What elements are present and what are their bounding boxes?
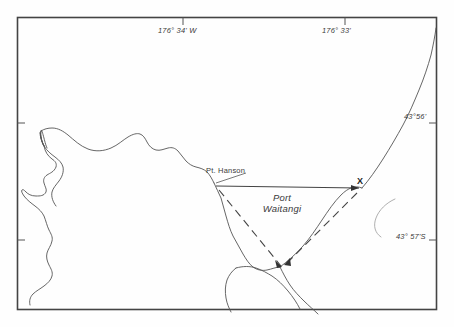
- label-port-waitangi: Port Waitangi: [252, 192, 312, 214]
- label-port-waitangi-line2: Waitangi: [252, 203, 312, 214]
- map-frame: [18, 18, 437, 310]
- arrowhead-left: [275, 260, 282, 268]
- coastline-east-ridge: [362, 28, 436, 188]
- baseline-hanson-to-x: [216, 186, 359, 188]
- map-canvas: [0, 0, 454, 327]
- coastline-south-spur: [225, 268, 236, 312]
- label-latitude-43-57-s: 43° 57'S: [396, 232, 426, 241]
- label-longitude-176-34-w: 176° 34' W: [158, 26, 197, 35]
- coastline-north-west: [22, 146, 57, 305]
- coastline-south-inlet: [236, 267, 300, 310]
- label-station-x: X: [357, 176, 363, 186]
- label-latitude-43-56: 43°56': [404, 112, 426, 121]
- label-port-waitangi-line1: Port: [252, 192, 312, 203]
- arrowhead-right: [284, 258, 291, 266]
- label-pt-hanson: Pt. Hanson: [206, 166, 245, 175]
- map-figure: 176° 34' W 176° 33' 43°56' 43° 57'S Pt. …: [0, 0, 454, 327]
- offshore-reef-arc: [375, 199, 395, 237]
- coastline-bay-north: [41, 128, 214, 183]
- graticule-ticks: [18, 18, 437, 241]
- sighting-arrowheads: [275, 258, 291, 268]
- label-longitude-176-33: 176° 33': [322, 26, 351, 35]
